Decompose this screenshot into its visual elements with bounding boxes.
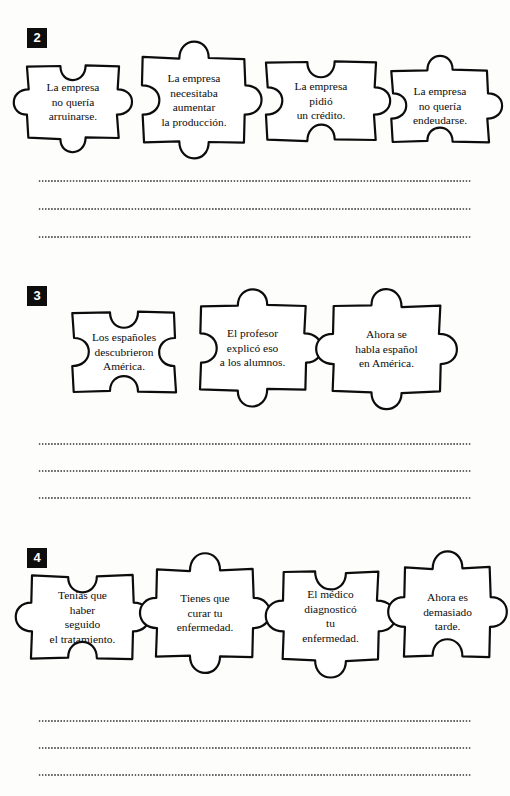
- answer-line[interactable]: [38, 720, 472, 722]
- puzzle-piece[interactable]: Tenías que haber seguido el tratamiento.: [32, 576, 133, 658]
- puzzle-piece-text: Los españoles descubrieron América.: [73, 330, 175, 374]
- puzzle-piece[interactable]: La empresa no quería arruinarse.: [28, 66, 118, 138]
- answer-line[interactable]: [38, 497, 472, 499]
- puzzle-piece[interactable]: Ahora es demasiado tarde.: [405, 568, 490, 656]
- puzzle-piece[interactable]: El médico diagnosticó tu enfermedad.: [283, 572, 378, 660]
- puzzle-piece[interactable]: La empresa no quería endeudarse.: [392, 70, 488, 142]
- puzzle-piece-text: La empresa pidió un crédito.: [267, 79, 375, 123]
- worksheet-page: 2La empresa no quería arruinarse.La empr…: [0, 0, 510, 796]
- answer-line[interactable]: [38, 470, 472, 472]
- exercise-number-badge: 3: [27, 286, 47, 306]
- exercise-number-badge: 2: [27, 28, 47, 48]
- puzzle-piece-text: Tenías que haber seguido el tratamiento.: [32, 588, 133, 646]
- puzzle-piece[interactable]: Ahora se habla español en América.: [333, 306, 440, 392]
- puzzle-piece-text: La empresa necesitaba aumentar la produc…: [143, 71, 245, 129]
- puzzle-piece[interactable]: La empresa pidió un crédito.: [267, 62, 375, 140]
- exercise-number-badge: 4: [27, 548, 47, 568]
- puzzle-piece-text: Ahora se habla español en América.: [333, 327, 440, 371]
- puzzle-piece-text: El profesor explicó eso a los alumnos.: [200, 326, 305, 370]
- puzzle-piece[interactable]: El profesor explicó eso a los alumnos.: [200, 306, 305, 390]
- puzzle-piece-text: Tienes que curar tu enfermedad.: [157, 591, 253, 635]
- answer-line[interactable]: [38, 180, 472, 182]
- answer-line[interactable]: [38, 747, 472, 749]
- answer-line[interactable]: [38, 443, 472, 445]
- puzzle-piece[interactable]: Tienes que curar tu enfermedad.: [157, 570, 253, 656]
- puzzle-piece[interactable]: La empresa necesitaba aumentar la produc…: [143, 58, 245, 142]
- answer-line[interactable]: [38, 208, 472, 210]
- puzzle-piece[interactable]: Los españoles descubrieron América.: [73, 312, 175, 392]
- puzzle-piece-text: El médico diagnosticó tu enfermedad.: [283, 587, 378, 645]
- puzzle-piece-text: La empresa no quería arruinarse.: [28, 80, 118, 124]
- answer-line[interactable]: [38, 774, 472, 776]
- puzzle-piece-text: La empresa no quería endeudarse.: [392, 84, 488, 128]
- answer-line[interactable]: [38, 236, 472, 238]
- puzzle-piece-text: Ahora es demasiado tarde.: [405, 590, 490, 634]
